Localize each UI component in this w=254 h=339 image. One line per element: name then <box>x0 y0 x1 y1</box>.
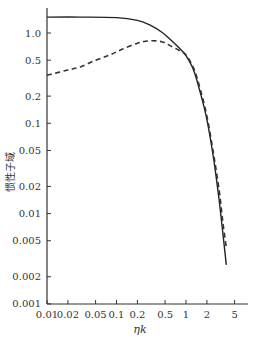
y-axis-title: 惯性子域 <box>4 152 16 192</box>
y-tick-label: 0.002 <box>12 271 41 282</box>
series-dashed-line <box>47 41 226 248</box>
y-tick-label: 1.0 <box>25 28 41 39</box>
y-tick-label: 0.005 <box>12 235 41 246</box>
y-ticks: 0.0010.0020.0050.010.020.050.10.20.51.0 <box>12 28 51 310</box>
chart: 0.010.020.050.10.20.5125 0.0010.0020.005… <box>0 0 254 339</box>
series-solid-line <box>47 17 226 265</box>
y-tick-label: 0.01 <box>19 208 41 219</box>
x-tick-label: 0.01 <box>36 309 58 320</box>
y-tick-label: 0.2 <box>25 91 41 102</box>
y-tick-label: 0.02 <box>19 181 41 192</box>
x-tick-label: 0.2 <box>129 309 145 320</box>
plot-area: 0.010.020.050.10.20.5125 0.0010.0020.005… <box>12 8 248 320</box>
x-tick-label: 0.02 <box>57 309 79 320</box>
x-tick-label: 0.5 <box>157 309 173 320</box>
x-tick-label: 0.05 <box>84 309 106 320</box>
y-tick-label: 0.05 <box>19 145 41 156</box>
x-axis-title: ηk <box>133 323 147 336</box>
y-tick-label: 0.5 <box>25 55 41 66</box>
x-tick-label: 1 <box>183 309 189 320</box>
x-tick-label: 0.1 <box>109 309 125 320</box>
x-ticks: 0.010.020.050.10.20.5125 <box>36 300 238 320</box>
y-tick-label: 0.001 <box>12 298 41 309</box>
x-tick-label: 5 <box>231 309 237 320</box>
x-tick-label: 2 <box>204 309 210 320</box>
y-tick-label: 0.1 <box>25 118 41 129</box>
series-group <box>47 17 226 265</box>
